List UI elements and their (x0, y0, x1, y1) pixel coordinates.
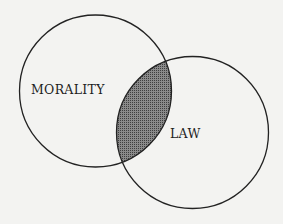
law-label: LAW (170, 126, 201, 141)
venn-diagram (0, 0, 283, 224)
morality-label: MORALITY (31, 82, 105, 97)
